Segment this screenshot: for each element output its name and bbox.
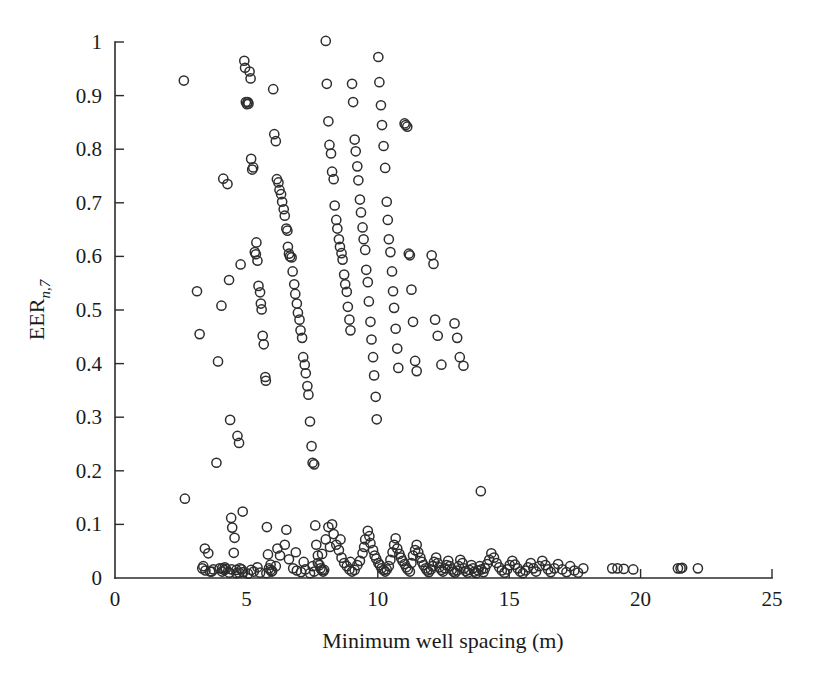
data-point — [259, 340, 268, 349]
data-point — [370, 371, 379, 380]
data-point — [377, 120, 386, 129]
data-point — [433, 331, 442, 340]
data-point — [333, 224, 342, 233]
data-point — [325, 140, 334, 149]
data-point — [228, 523, 237, 532]
data-point — [291, 548, 300, 557]
data-point — [192, 287, 201, 296]
y-tick-label: 0.6 — [76, 244, 102, 268]
data-point — [429, 259, 438, 268]
data-point — [324, 117, 333, 126]
x-tick-label: 0 — [110, 587, 121, 611]
data-point — [330, 201, 339, 210]
data-point — [224, 275, 233, 284]
data-point — [255, 288, 264, 297]
data-point — [325, 542, 334, 551]
data-point — [212, 458, 221, 467]
data-point — [619, 564, 628, 573]
data-point — [367, 335, 376, 344]
data-point — [455, 353, 464, 362]
data-point — [345, 315, 354, 324]
data-point — [247, 154, 256, 163]
data-point — [236, 260, 245, 269]
y-axis-title: EERn,7 — [24, 278, 53, 340]
data-point — [371, 392, 380, 401]
data-point — [375, 78, 384, 87]
data-point — [374, 52, 383, 61]
data-point — [364, 297, 373, 306]
data-point — [350, 135, 359, 144]
data-point — [338, 255, 347, 264]
data-point — [379, 141, 388, 150]
data-point — [362, 265, 371, 274]
y-tick-label: 0 — [92, 566, 103, 590]
data-point — [363, 278, 372, 287]
data-point — [382, 197, 391, 206]
data-point — [388, 287, 397, 296]
data-point — [258, 331, 267, 340]
plot-canvas: 0510152025 00.10.20.30.40.50.60.70.80.91… — [0, 0, 818, 674]
data-point — [253, 256, 262, 265]
data-point — [368, 353, 377, 362]
data-point — [387, 267, 396, 276]
x-tick-label: 20 — [630, 587, 651, 611]
data-point — [361, 245, 370, 254]
data-point — [411, 356, 420, 365]
x-tick-label: 15 — [499, 587, 520, 611]
data-point — [366, 317, 375, 326]
data-markers-group — [179, 36, 702, 578]
data-point — [229, 548, 238, 557]
scatter-plot-figure: 0510152025 00.10.20.30.40.50.60.70.80.91… — [0, 0, 818, 674]
data-point — [359, 235, 368, 244]
data-point — [305, 417, 314, 426]
data-point — [347, 79, 356, 88]
x-tick-label: 5 — [241, 587, 252, 611]
y-tick-label: 0.7 — [76, 191, 102, 215]
data-point — [280, 211, 289, 220]
data-point — [179, 76, 188, 85]
data-point — [356, 208, 365, 217]
data-point — [252, 238, 261, 247]
data-point — [355, 195, 364, 204]
axes-group — [115, 42, 772, 578]
data-point — [381, 163, 390, 172]
data-point — [353, 162, 362, 171]
data-point — [349, 97, 358, 106]
y-tick-label: 1 — [92, 30, 103, 54]
data-point — [238, 507, 247, 516]
data-point — [407, 285, 416, 294]
data-point — [332, 215, 341, 224]
data-point — [322, 79, 331, 88]
data-point — [346, 326, 355, 335]
data-point — [257, 305, 266, 314]
x-axis-title: Minimum well spacing (m) — [322, 628, 563, 653]
y-tick-label: 0.3 — [76, 405, 102, 429]
data-point — [262, 522, 271, 531]
data-point — [386, 248, 395, 257]
data-point — [394, 363, 403, 372]
data-point — [351, 147, 360, 156]
data-point — [383, 215, 392, 224]
y-axis-title-subscript: n,7 — [37, 278, 53, 298]
y-tick-label: 0.9 — [76, 84, 102, 108]
data-point — [376, 101, 385, 110]
data-point — [476, 487, 485, 496]
data-point — [693, 564, 702, 573]
data-point — [437, 360, 446, 369]
data-point — [391, 534, 400, 543]
data-point — [263, 550, 272, 559]
x-tick-label: 10 — [367, 587, 388, 611]
data-point — [384, 235, 393, 244]
data-point — [301, 369, 310, 378]
data-point — [412, 367, 421, 376]
data-point — [321, 36, 330, 45]
data-point — [217, 301, 226, 310]
data-point — [629, 565, 638, 574]
data-point — [354, 176, 363, 185]
y-tick-label: 0.8 — [76, 137, 102, 161]
y-tick-label: 0.5 — [76, 298, 102, 322]
data-point — [254, 281, 263, 290]
y-tick-label: 0.2 — [76, 459, 102, 483]
data-point — [450, 319, 459, 328]
data-point — [269, 85, 278, 94]
